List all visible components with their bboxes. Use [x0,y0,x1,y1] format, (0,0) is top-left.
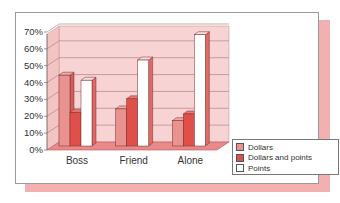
bar-dollars [59,75,70,146]
bar-points [194,35,205,146]
x-tick-label: Alone [178,155,204,166]
y-tick-label: 0% [29,144,43,155]
y-tick-label: 20% [24,110,44,121]
bar-points [81,80,92,146]
bar-side [205,32,209,146]
bar-dollars-and-points [70,112,81,146]
legend-label: Points [248,164,270,173]
bar-side [92,77,96,146]
y-tick-label: 50% [24,60,44,71]
y-tick-label: 70% [24,26,44,37]
legend-item-points: Points [236,163,335,174]
bar-dollars-and-points [127,99,138,146]
legend-swatch-dollars [236,143,244,151]
y-tick-label: 60% [24,43,44,54]
legend-item-dollars-and-points: Dollars and points [236,153,335,164]
legend-item-dollars: Dollars [236,142,335,153]
y-tick-label: 30% [24,93,44,104]
legend-swatch-points [236,164,244,172]
bar-dollars [172,121,183,146]
bar-dollars-and-points [183,114,194,146]
y-tick-label: 10% [24,127,44,138]
y-tick-label: 40% [24,77,44,88]
legend-swatch-dollars-and-points [236,154,244,162]
x-tick-label: Friend [119,155,147,166]
bar-dollars [116,109,127,146]
bar-side [149,57,153,146]
x-tick-label: Boss [66,155,88,166]
legend-label: Dollars [248,143,273,152]
legend-label: Dollars and points [248,153,312,162]
bar-points [138,60,149,146]
chart-legend: Dollars Dollars and points Points [232,139,339,175]
